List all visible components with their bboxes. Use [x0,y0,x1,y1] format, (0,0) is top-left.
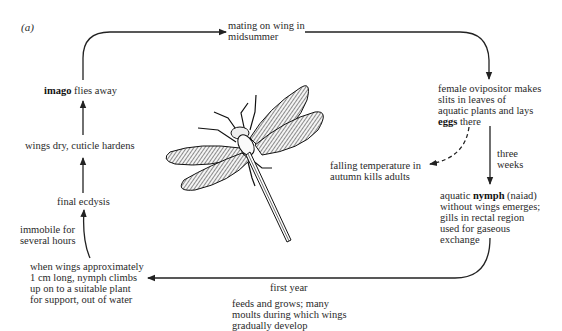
label-mating: mating on wing in midsummer [228,20,305,42]
immobile-line1: immobile for [20,224,76,235]
nymph-line4: used for gaseous [440,223,540,234]
label-three-weeks: three weeks [497,148,523,170]
three-weeks-line1: three [497,148,523,159]
arrow-immobile [84,210,90,258]
ovipositor-line1: female ovipositor makes [438,83,541,94]
climbs-line4: for support, out of water [30,294,144,305]
label-immobile: immobile for several hours [20,224,76,246]
arrow-imago-to-mating [83,32,226,80]
climbs-line2: 1 cm long, nymph climbs [30,272,144,283]
label-first-year: first year [270,282,308,293]
label-ovipositor: female ovipositor makes slits in leaves … [438,83,541,127]
label-feeds: feeds and grows; many moults during whic… [232,298,347,331]
arrow-dashed-autumn [430,127,469,164]
arrow-first-year [148,238,490,278]
nymph-line3: gills in rectal region [440,212,540,223]
label-final-ecdysis: final ecdysis [57,196,110,207]
climbs-line3: up on to a suitable plant [30,283,144,294]
nymph-line1-pre: aquatic [440,190,473,201]
label-nymph: aquatic nymph (naiad) without wings emer… [440,190,540,245]
term-eggs: eggs [438,116,457,127]
label-imago: imago flies away [44,85,117,96]
label-autumn: falling temperature in autumn kills adul… [330,160,421,182]
mating-line1: mating on wing in [228,20,305,31]
feeds-line1: feeds and grows; many [232,298,347,309]
climbs-line1: when wings approximately [30,261,144,272]
nymph-line5: exchange [440,234,540,245]
nymph-line2: without wings emerges; [440,201,540,212]
nymph-line1: aquatic nymph (naiad) [440,190,540,201]
term-imago: imago [44,85,71,96]
label-climbs: when wings approximately 1 cm long, nymp… [30,261,144,305]
mating-line2: midsummer [228,31,305,42]
ovipositor-line2: slits in leaves of [438,94,541,105]
autumn-line2: autumn kills adults [330,171,421,182]
imago-rest: flies away [71,85,116,96]
ovipositor-line4: eggs there [438,116,541,127]
nymph-line1-post: (naiad) [504,190,536,201]
label-wings-dry: wings dry, cuticle hardens [25,140,135,151]
three-weeks-line2: weeks [497,159,523,170]
feeds-line3: gradually develop [232,320,347,331]
immobile-line2: several hours [20,235,76,246]
autumn-line1: falling temperature in [330,160,421,171]
arrow-mating-to-ovipositor [305,32,489,79]
term-nymph: nymph [473,190,505,201]
dragonfly-illustration [166,86,323,242]
ovipositor-line3: aquatic plants and lays [438,105,541,116]
feeds-line2: moults during which wings [232,309,347,320]
ovipositor-line4-rest: there [457,116,481,127]
